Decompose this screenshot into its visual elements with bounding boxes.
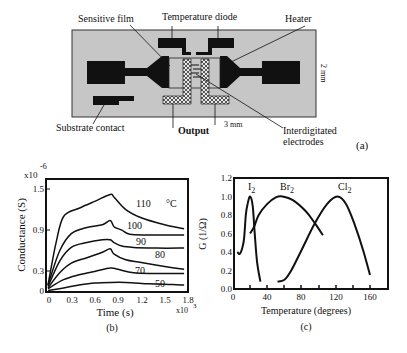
chart-c-curves — [237, 196, 370, 281]
caption-a: (a) — [356, 139, 369, 152]
svg-text:1.0: 1.0 — [221, 192, 233, 202]
label-heater: Heater — [285, 13, 312, 24]
chart-c-frame — [234, 178, 388, 289]
svg-text:160: 160 — [363, 292, 377, 302]
label-temperature-diode: Temperature diode — [162, 11, 238, 22]
chart-b-y-label: Conductance (S) — [15, 198, 28, 272]
label-70: 70 — [135, 265, 145, 276]
right-heater-lead — [240, 68, 262, 76]
svg-text:0.8: 0.8 — [221, 210, 233, 220]
label-interdigitated: Interdigitated — [283, 125, 337, 136]
label-90: 90 — [136, 236, 146, 247]
label-110: 110 — [136, 198, 151, 209]
svg-text:0.6: 0.6 — [221, 229, 233, 239]
svg-text:0: 0 — [47, 295, 52, 305]
chart-b-x-exponent: 3 — [193, 302, 197, 310]
chart-b-x-label: Time (s) — [96, 306, 134, 319]
sensor-chip-diagram: Sensitive film Temperature diode Heater … — [56, 11, 369, 152]
series-110c-line — [48, 194, 184, 285]
svg-text:0.9: 0.9 — [112, 295, 124, 305]
svg-text:0: 0 — [231, 292, 236, 302]
svg-text:0.3: 0.3 — [33, 266, 45, 276]
chart-c-x-label: Temperature (degrees) — [261, 305, 351, 317]
chart-c: G (1/Ω) 0.0 0.2 0.4 0.6 0.8 1.0 1.2 0 40… — [197, 173, 388, 333]
caption-c: (c) — [300, 321, 311, 333]
label-i2: I2 — [248, 181, 255, 195]
label-deg-c: °C — [166, 198, 177, 209]
svg-text:0.9: 0.9 — [33, 225, 45, 235]
chart-b-curves — [48, 194, 184, 290]
chart-b: x10 -6 Conductance (S) 0 0.3 0.9 1.5 0 0… — [15, 162, 197, 334]
left-heater-pad — [87, 61, 125, 84]
svg-text:1.5: 1.5 — [33, 184, 45, 194]
chart-b-y-ticks: 0 0.3 0.9 1.5 — [33, 184, 45, 296]
label-sensitive-film: Sensitive film — [78, 13, 134, 24]
label-80: 80 — [155, 249, 165, 260]
svg-text:120: 120 — [329, 292, 343, 302]
chart-b-x-multiplier: x10 — [176, 306, 188, 315]
svg-text:1.5: 1.5 — [159, 295, 171, 305]
label-50: 50 — [155, 278, 165, 289]
label-br2: Br2 — [280, 181, 294, 195]
svg-text:1.2: 1.2 — [136, 295, 147, 305]
chart-b-curve-labels: 110 °C 100 90 80 70 50 — [127, 198, 177, 289]
svg-text:0.3: 0.3 — [66, 295, 78, 305]
chart-c-y-ticks: 0.0 0.2 0.4 0.6 0.8 1.0 1.2 — [221, 173, 233, 294]
svg-text:0.2: 0.2 — [221, 266, 232, 276]
caption-b: (b) — [106, 322, 118, 334]
chart-b-x-ticks: 0 0.3 0.6 0.9 1.2 1.5 1.8 — [47, 295, 194, 305]
svg-text:80: 80 — [297, 292, 307, 302]
figure: Sensitive film Temperature diode Heater … — [0, 0, 407, 353]
svg-text:0.6: 0.6 — [89, 295, 101, 305]
chart-c-y-label: G (1/Ω) — [197, 218, 209, 250]
left-heater-lead — [125, 68, 147, 76]
diode-left-pad — [158, 38, 186, 48]
label-electrodes: electrodes — [283, 136, 324, 147]
svg-text:1.2: 1.2 — [221, 173, 232, 183]
label-output: Output — [178, 125, 210, 136]
diode-right-pad — [208, 38, 234, 48]
series-i2-line — [237, 196, 260, 281]
series-cl2-line — [278, 197, 371, 282]
label-height-dimension: 2 mm — [319, 64, 328, 83]
svg-text:0: 0 — [40, 286, 45, 296]
chart-c-x-ticks: 0 40 80 120 160 — [231, 292, 378, 302]
label-cl2: Cl2 — [338, 181, 351, 195]
svg-text:0.4: 0.4 — [221, 247, 233, 257]
svg-text:40: 40 — [263, 292, 273, 302]
chart-b-y-multiplier: x10 — [24, 170, 38, 180]
label-substrate-contact: Substrate contact — [56, 122, 125, 133]
chart-b-y-exponent: -6 — [40, 162, 47, 171]
right-heater-pad — [262, 61, 300, 84]
label-width-dimension: 3 mm — [224, 120, 243, 129]
label-100: 100 — [127, 220, 142, 231]
